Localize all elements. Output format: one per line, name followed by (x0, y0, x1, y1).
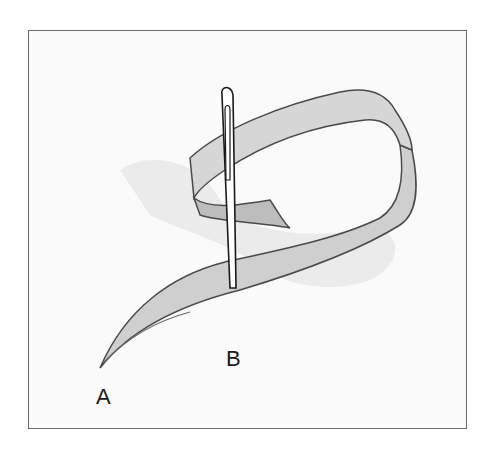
label-a: A (96, 384, 111, 410)
ribbon-needle-illustration (0, 0, 495, 451)
needle-icon (222, 88, 236, 289)
label-b: B (226, 346, 241, 372)
